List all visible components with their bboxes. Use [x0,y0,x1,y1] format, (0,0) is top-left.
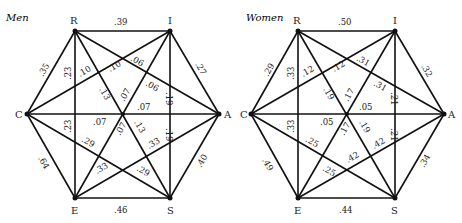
edge-label: .19 [321,85,336,102]
edge-label: .42 [344,149,361,164]
edge-label: .21 [389,92,399,106]
node-i: I [393,15,397,26]
node-i: I [168,15,172,26]
men-title: Men [5,12,29,23]
edge-label: .29 [135,163,152,178]
edge-label: .23 [63,119,73,133]
edge-label: .44 [339,205,353,215]
edge-label: .29 [261,61,276,78]
edge-label: .19 [164,128,174,142]
node-c: C [15,109,23,120]
node-s: S [391,205,398,216]
edge-label: .21 [389,128,399,142]
edge-label: .12 [299,63,316,78]
node-a: A [447,109,456,120]
edge-label: .13 [97,85,112,102]
node-s: S [167,205,174,216]
edge-label: .05 [320,117,334,127]
edge-label: .06 [144,78,161,93]
edge-label: .13 [132,118,147,135]
women-hexagon: Women R I A S [240,12,456,216]
edge-label: .49 [260,156,275,173]
edge-label: .06 [129,53,146,68]
edge-label: .39 [114,17,128,27]
node-e: E [71,205,78,216]
hexagon-diagrams: Men R I [0,0,462,223]
edge-label: .31 [355,53,372,68]
edge-label: .23 [63,66,73,80]
edge-label: .40 [194,152,209,169]
edge-label: .33 [286,66,296,80]
node-e: E [294,205,301,216]
edge-label: .46 [114,205,128,215]
node-c: C [240,109,248,120]
edge-label: .07 [113,120,128,137]
node-r: R [70,15,78,26]
edge-label: .33 [286,119,296,133]
edge-label: .64 [36,154,51,171]
edge-label: .07 [93,117,107,127]
node-a: A [223,109,232,120]
edge-label: .19 [357,118,372,135]
edge-label: .05 [359,102,373,112]
edge-label: .19 [164,92,174,106]
node-r: R [293,15,301,26]
edge-label: .07 [137,102,151,112]
men-hexagon: Men R I [5,12,232,216]
edge-label: .50 [338,17,352,27]
women-title: Women [246,12,283,23]
edge-label: .17 [337,120,352,137]
